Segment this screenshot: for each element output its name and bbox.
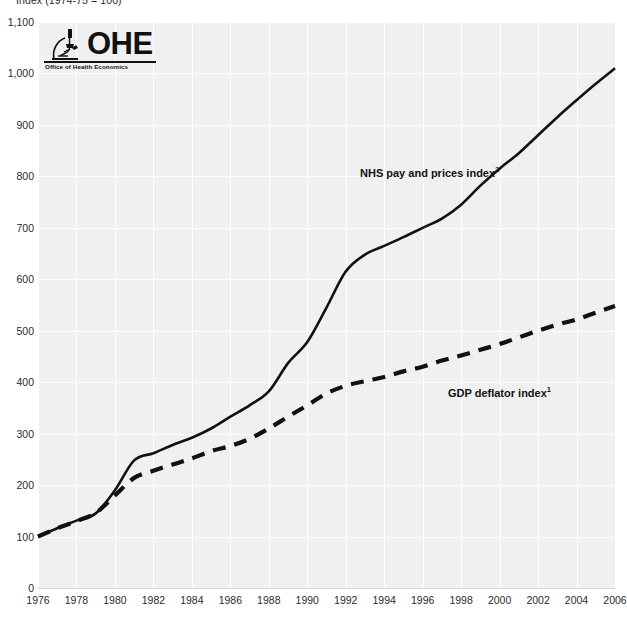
microscope-icon [38,26,90,62]
y-axis-tick-label: 0 [0,582,34,594]
y-axis-tick-label: 1,000 [0,67,34,79]
series-label-nhs-text: NHS pay and prices index [360,167,495,179]
y-axis-tick-label: 1,100 [0,16,34,28]
series-label-gdp: GDP deflator index1 [448,385,551,399]
x-axis-tick-label: 2006 [603,594,626,606]
series-lines [38,22,615,588]
x-axis-tick-label: 2000 [488,594,511,606]
y-axis-tick-label: 400 [0,376,34,388]
x-axis-tick-label: 1998 [449,594,472,606]
x-axis-tick-label: 1992 [334,594,357,606]
series-label-gdp-text: GDP deflator index [448,387,547,399]
ohe-tagline: Office of Health Economics [45,63,128,70]
y-axis-tick-labels: 01002003004005006007008009001,0001,100 [0,0,34,618]
x-axis-tick-label: 2004 [565,594,588,606]
y-axis-tick-label: 800 [0,170,34,182]
y-axis-tick-label: 500 [0,325,34,337]
y-axis-tick-label: 300 [0,428,34,440]
series-line-nhs [38,68,615,536]
x-axis-tick-label: 1976 [26,594,49,606]
x-axis-tick-label: 1984 [180,594,203,606]
gridline-vertical [615,22,616,588]
x-axis-baseline [38,588,615,589]
x-axis-tick-label: 1994 [373,594,396,606]
x-axis-tick-label: 1990 [296,594,319,606]
chart-plot-area [38,22,615,588]
y-axis-tick-label: 100 [0,531,34,543]
y-axis-tick-label: 700 [0,222,34,234]
x-axis-tick-label: 1980 [103,594,126,606]
series-label-gdp-superscript: 1 [547,385,551,394]
x-axis-tick-label: 1978 [65,594,88,606]
x-axis-tick-label: 1996 [411,594,434,606]
x-axis-tick-labels: 1976197819801982198419861988199019921994… [0,594,621,614]
y-axis-tick-label: 900 [0,119,34,131]
ohe-logo: OHE Office of Health Economics [38,28,156,72]
y-axis-tick-label: 600 [0,273,34,285]
series-label-nhs: NHS pay and prices index2 [360,165,499,179]
x-axis-tick-label: 2002 [526,594,549,606]
x-axis-tick-label: 1982 [142,594,165,606]
y-axis-tick-label: 200 [0,479,34,491]
series-line-gdp [38,306,615,537]
x-axis-tick-label: 1988 [257,594,280,606]
ohe-wordmark: OHE [87,28,153,59]
series-label-nhs-superscript: 2 [495,165,499,174]
x-axis-tick-label: 1986 [219,594,242,606]
